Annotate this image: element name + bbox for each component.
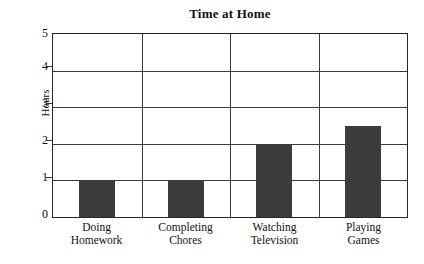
bar-doing-homework xyxy=(79,180,115,217)
category-divider-2 xyxy=(230,34,231,217)
y-tick-label-1: 1 xyxy=(22,171,48,183)
category-label-line2: Games xyxy=(319,234,408,247)
category-label-line2: Chores xyxy=(141,234,230,247)
bar-watching-television xyxy=(256,144,292,217)
category-label-doing-homework: Doing Homework xyxy=(52,221,141,247)
category-label-line2: Homework xyxy=(52,234,141,247)
y-tick-label-2: 2 xyxy=(22,134,48,146)
y-tick-label-0: 0 xyxy=(22,208,48,220)
category-label-playing-games: Playing Games xyxy=(319,221,408,247)
category-label-line2: Television xyxy=(230,234,319,247)
category-label-completing-chores: Completing Chores xyxy=(141,221,230,247)
y-tick-label-5: 5 xyxy=(22,27,48,39)
category-label-line1: Playing xyxy=(319,221,408,234)
bar-completing-chores xyxy=(168,180,204,217)
chart-title: Time at Home xyxy=(52,6,408,22)
y-tick-label-3: 3 xyxy=(22,97,48,109)
category-label-watching-television: Watching Television xyxy=(230,221,319,247)
bar-chart-figure: Time at Home Hours 0 1 2 3 4 5 Doing Hom… xyxy=(0,0,424,264)
plot-area xyxy=(52,33,408,218)
category-divider-3 xyxy=(319,34,320,217)
category-label-line1: Doing xyxy=(52,221,141,234)
y-tick-label-4: 4 xyxy=(22,60,48,72)
category-label-line1: Completing xyxy=(141,221,230,234)
category-divider-1 xyxy=(142,34,143,217)
bar-playing-games xyxy=(345,126,381,218)
category-label-line1: Watching xyxy=(230,221,319,234)
